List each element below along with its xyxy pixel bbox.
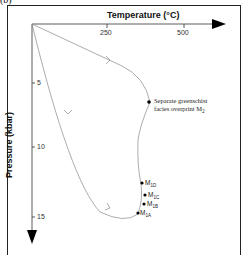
y-tick-10: 10 [37,143,45,150]
point-m1d [140,181,143,184]
path-arrow-icon [105,203,110,210]
path-arrow-icon [64,110,72,114]
y-axis-title: Pressure (kbar) [4,112,14,178]
x-tick-500: 500 [177,29,189,36]
point-m1b [142,202,145,205]
label-m1a: M1A [140,209,151,218]
x-tick-250: 250 [100,29,112,36]
point-m1c [143,193,146,196]
label-m1b: M1B [147,200,158,209]
x-axis-arrow-icon [212,19,226,29]
label-m1c: M1C [148,191,159,200]
point-m2 [147,100,151,104]
y-axis-arrow-icon [27,230,37,244]
label-m1d: M1D [145,179,156,188]
pt-path [32,24,150,219]
y-tick-5: 5 [37,79,41,86]
m2-annotation: Separate greenschist facies overprint M2 [154,97,207,115]
y-tick-15: 15 [37,213,45,220]
x-axis-title: Temperature (°C) [107,10,179,20]
